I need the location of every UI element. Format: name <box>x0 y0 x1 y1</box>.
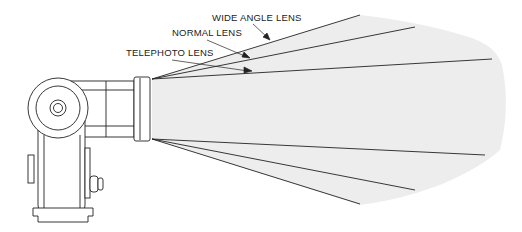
flash-knob <box>90 176 98 192</box>
wide-angle-label: WIDE ANGLE LENS <box>212 12 302 23</box>
pivot-outer-circle <box>28 78 88 138</box>
flash-side-panel <box>28 155 34 183</box>
telephoto-label: TELEPHOTO LENS <box>126 47 214 58</box>
flash-unit <box>28 77 150 222</box>
flash-lens-ring <box>134 77 150 141</box>
flash-beam-diagram: WIDE ANGLE LENS NORMAL LENS TELEPHOTO LE… <box>0 0 522 232</box>
flash-hot-shoe-foot <box>33 208 93 222</box>
normal-label: NORMAL LENS <box>172 27 242 38</box>
light-beam-area <box>152 15 506 205</box>
flash-side-panel-right <box>85 148 90 198</box>
